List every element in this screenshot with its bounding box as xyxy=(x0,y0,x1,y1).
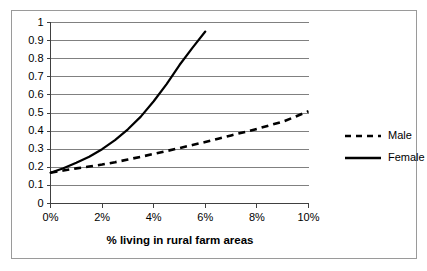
y-tick-label: 0.2 xyxy=(10,161,44,172)
series-line-female xyxy=(51,32,206,173)
legend-swatches-group xyxy=(345,136,381,158)
y-tick-label: 0.9 xyxy=(10,35,44,46)
chart-container: 00.10.20.30.40.50.60.70.80.91 0%2%4%6%8%… xyxy=(0,0,427,271)
y-tick-label: 0.7 xyxy=(10,71,44,82)
x-tick-label: 0% xyxy=(31,212,71,223)
x-tick-label: 4% xyxy=(134,212,174,223)
y-tick-label: 0 xyxy=(10,198,44,209)
x-axis-title: % living in rural farm areas xyxy=(50,234,310,246)
plot-canvas xyxy=(0,0,427,271)
data-series-group xyxy=(51,32,309,173)
legend-item-label-female: Female xyxy=(388,152,425,163)
x-tick-label: 8% xyxy=(237,212,277,223)
series-line-male xyxy=(51,111,309,173)
y-tick-label: 0.3 xyxy=(10,143,44,154)
y-tick-label: 0.1 xyxy=(10,179,44,190)
x-tick-label: 2% xyxy=(82,212,122,223)
x-tick-label: 10% xyxy=(289,212,329,223)
y-tick-label: 0.5 xyxy=(10,107,44,118)
x-tick-label: 6% xyxy=(185,212,225,223)
legend-item-label-male: Male xyxy=(388,130,412,141)
y-tick-label: 1 xyxy=(10,17,44,28)
gridlines-group xyxy=(51,23,309,204)
y-tick-label: 0.8 xyxy=(10,53,44,64)
y-tick-label: 0.6 xyxy=(10,89,44,100)
y-tick-label: 0.4 xyxy=(10,125,44,136)
